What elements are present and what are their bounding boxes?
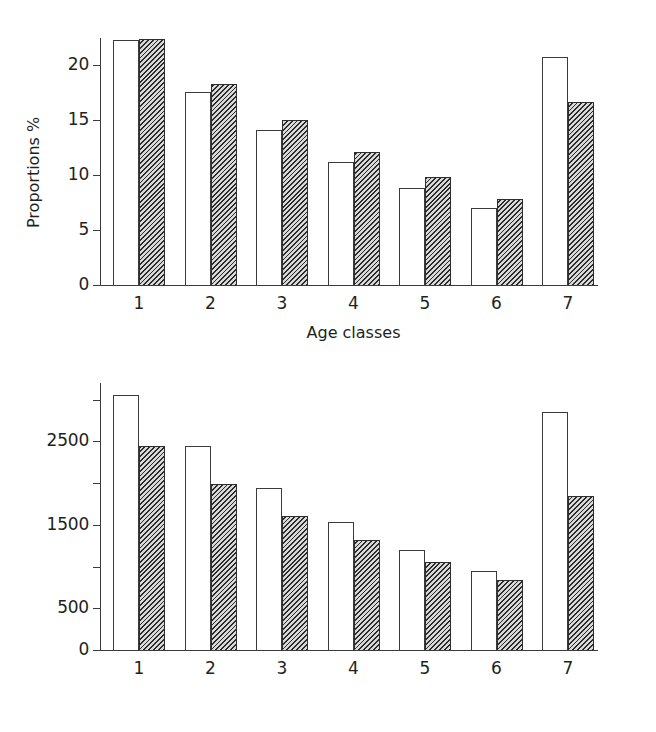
y-axis-tick <box>93 650 100 651</box>
bar-hatched <box>211 84 237 285</box>
bar-open <box>185 92 211 285</box>
bar-open <box>256 488 282 650</box>
y-axis-tick <box>93 120 100 121</box>
figure-root: Proportions % 05101520 1234567 Age class… <box>0 0 656 732</box>
x-axis-tick-label: 7 <box>548 660 588 677</box>
bar-open <box>542 412 568 650</box>
y-axis-tick-label: 15 <box>19 111 89 128</box>
bar-hatched <box>568 496 594 650</box>
x-axis-tick-label: 4 <box>334 295 374 312</box>
x-axis-tick-label: 5 <box>405 660 445 677</box>
bar-open <box>185 446 211 650</box>
x-axis-tick-label: 3 <box>262 660 302 677</box>
bar-hatched <box>354 540 380 650</box>
bar-hatched <box>497 199 523 285</box>
bar-hatched <box>497 580 523 650</box>
y-axis-tick <box>93 441 100 442</box>
bar-open <box>256 130 282 285</box>
chart-panel-proportions: Proportions % 05101520 1234567 Age class… <box>0 0 656 366</box>
plot-area-proportions: 05101520 1234567 <box>0 0 656 366</box>
bar-hatched <box>139 446 165 650</box>
y-axis-line-proportions <box>100 38 101 286</box>
y-axis-tick-label: 5 <box>19 221 89 238</box>
x-axis-title-proportions: Age classes <box>254 325 454 341</box>
y-axis-tick <box>93 400 100 401</box>
y-axis-line-density <box>100 383 101 651</box>
x-axis-tick-label: 1 <box>119 660 159 677</box>
y-axis-tick <box>93 608 100 609</box>
plot-area-density: 050015002500 1234567 <box>0 366 656 732</box>
bar-hatched <box>139 39 165 285</box>
x-axis-tick-label: 3 <box>262 295 302 312</box>
x-axis-line-proportions <box>100 285 598 286</box>
bar-open <box>328 522 354 650</box>
x-axis-tick-label: 2 <box>191 295 231 312</box>
y-axis-tick <box>93 483 100 484</box>
y-axis-tick-label: 2500 <box>19 432 89 449</box>
x-axis-tick-label: 2 <box>191 660 231 677</box>
y-axis-tick <box>93 65 100 66</box>
bar-open <box>471 571 497 650</box>
x-axis-line-density <box>100 650 598 651</box>
bar-open <box>542 57 568 285</box>
y-axis-tick <box>93 567 100 568</box>
y-axis-tick-label: 1500 <box>19 516 89 533</box>
bar-hatched <box>568 102 594 285</box>
y-axis-tick-label: 0 <box>19 276 89 293</box>
bar-hatched <box>282 120 308 285</box>
y-axis-tick <box>93 525 100 526</box>
bar-open <box>399 188 425 285</box>
bar-open <box>328 162 354 285</box>
bar-hatched <box>282 516 308 650</box>
bar-hatched <box>211 484 237 650</box>
bar-open <box>471 208 497 285</box>
y-axis-tick-label: 20 <box>19 56 89 73</box>
y-axis-tick-label: 10 <box>19 166 89 183</box>
bar-open <box>113 395 139 650</box>
bar-hatched <box>425 177 451 285</box>
y-axis-tick <box>93 285 100 286</box>
y-axis-tick-label: 0 <box>19 641 89 658</box>
x-axis-tick-label: 1 <box>119 295 159 312</box>
x-axis-tick-label: 4 <box>334 660 374 677</box>
chart-panel-density: Density [ind] 050015002500 1234567 Age c… <box>0 366 656 732</box>
bar-open <box>399 550 425 650</box>
bar-open <box>113 40 139 285</box>
y-axis-tick <box>93 230 100 231</box>
x-axis-tick-label: 7 <box>548 295 588 312</box>
bar-hatched <box>425 562 451 650</box>
x-axis-tick-label: 6 <box>477 660 517 677</box>
x-axis-tick-label: 5 <box>405 295 445 312</box>
bar-hatched <box>354 152 380 285</box>
y-axis-tick <box>93 175 100 176</box>
y-axis-tick-label: 500 <box>19 599 89 616</box>
x-axis-tick-label: 6 <box>477 295 517 312</box>
